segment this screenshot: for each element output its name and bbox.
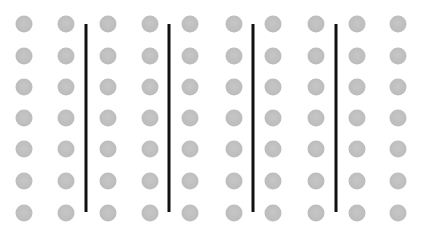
dot (349, 79, 366, 96)
dot (349, 141, 366, 158)
dot (182, 205, 199, 222)
dot (390, 173, 407, 190)
dot (58, 16, 75, 33)
dot (349, 110, 366, 127)
dot (100, 173, 117, 190)
dot (390, 48, 407, 65)
dot (390, 205, 407, 222)
dot (226, 141, 243, 158)
dot (182, 173, 199, 190)
dot (16, 141, 33, 158)
dot (265, 16, 282, 33)
dot (58, 205, 75, 222)
dot (142, 141, 159, 158)
dot (58, 79, 75, 96)
dot-grid-figure (0, 0, 423, 231)
dot (308, 110, 325, 127)
dot (100, 110, 117, 127)
dot (182, 48, 199, 65)
dot (58, 48, 75, 65)
dot (142, 110, 159, 127)
dot (226, 205, 243, 222)
separator-line (85, 24, 88, 212)
dot (308, 141, 325, 158)
dot (308, 48, 325, 65)
dot (308, 16, 325, 33)
dot (58, 110, 75, 127)
dot (142, 205, 159, 222)
separator-line (335, 24, 338, 212)
dot (142, 79, 159, 96)
dot (16, 173, 33, 190)
dot (100, 205, 117, 222)
dot (182, 79, 199, 96)
dot (16, 48, 33, 65)
dot (182, 16, 199, 33)
dot (100, 79, 117, 96)
separator-line (252, 24, 255, 212)
dot (58, 173, 75, 190)
dot (265, 141, 282, 158)
dot (142, 173, 159, 190)
dot (349, 16, 366, 33)
dot (16, 205, 33, 222)
dot (100, 48, 117, 65)
dot (390, 16, 407, 33)
dot (16, 16, 33, 33)
dot (390, 110, 407, 127)
dot (58, 141, 75, 158)
dot (16, 79, 33, 96)
dot (265, 79, 282, 96)
dot (308, 205, 325, 222)
dot (390, 141, 407, 158)
dot (308, 79, 325, 96)
dot (182, 110, 199, 127)
dot (100, 16, 117, 33)
dot (16, 110, 33, 127)
dot (349, 48, 366, 65)
dot (265, 110, 282, 127)
dot (265, 205, 282, 222)
dot (182, 141, 199, 158)
dot (100, 141, 117, 158)
dot (142, 16, 159, 33)
dot (308, 173, 325, 190)
dot (226, 79, 243, 96)
dot (349, 173, 366, 190)
dot (226, 173, 243, 190)
dot (142, 48, 159, 65)
dot (265, 48, 282, 65)
dot (390, 79, 407, 96)
dot (265, 173, 282, 190)
dot (349, 205, 366, 222)
dot (226, 110, 243, 127)
dot (226, 16, 243, 33)
dot (226, 48, 243, 65)
separator-line (168, 24, 171, 212)
